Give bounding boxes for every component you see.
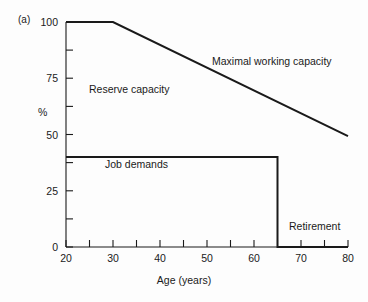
series-job-demands	[66, 157, 348, 247]
x-axis-label: Age (years)	[0, 275, 368, 286]
x-tick-label-70: 70	[281, 253, 321, 264]
x-tick-label-30: 30	[93, 253, 133, 264]
x-tick-label-40: 40	[140, 253, 180, 264]
y-tick-label-100: 100	[14, 17, 58, 28]
annotation-retirement: Retirement	[289, 221, 340, 232]
y-tick-label-75: 75	[14, 73, 58, 84]
annotation-maximal-working-capacity: Maximal working capacity	[212, 56, 332, 67]
x-tick-label-60: 60	[234, 253, 274, 264]
chart-figure: (a) 0 25 50 75 100 20 30 40 50 60 70 80 …	[0, 0, 368, 302]
y-tick-label-0: 0	[14, 242, 58, 253]
x-axis-ticks	[66, 240, 348, 247]
y-tick-label-50: 50	[14, 130, 58, 141]
y-tick-label-25: 25	[14, 186, 58, 197]
y-axis-label: %	[38, 107, 47, 118]
annotation-job-demands: Job demands	[105, 159, 168, 170]
y-axis-ticks	[66, 22, 73, 247]
annotation-reserve-capacity: Reserve capacity	[89, 84, 170, 95]
x-tick-label-50: 50	[187, 253, 227, 264]
x-tick-label-20: 20	[46, 253, 86, 264]
series-maximal-working-capacity	[66, 22, 348, 136]
x-tick-label-80: 80	[328, 253, 368, 264]
